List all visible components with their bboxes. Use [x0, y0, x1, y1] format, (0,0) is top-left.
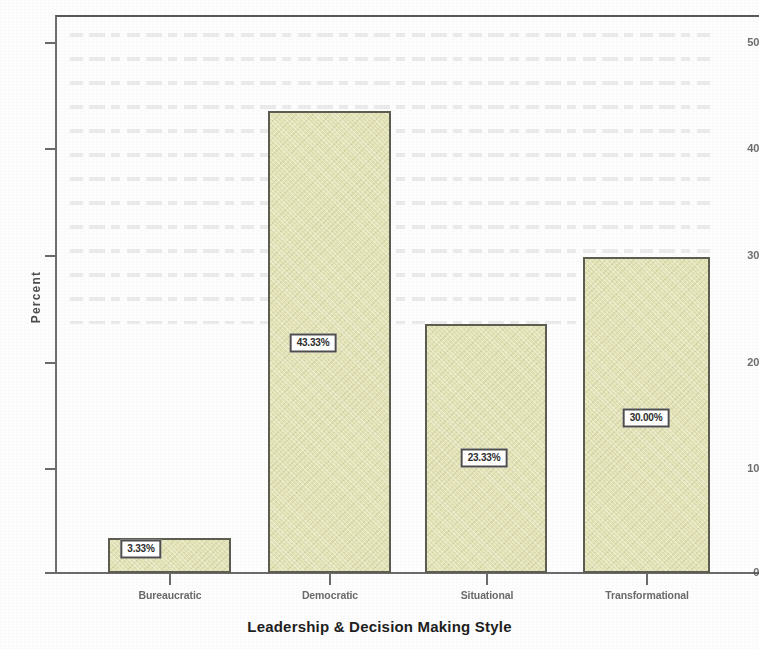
y-tick-label-20: 20 — [719, 356, 759, 368]
x-tick-label-bureaucratic: Bureaucratic — [85, 589, 255, 601]
bar-chart-figure: Percent 50 40 30 20 10 0 3.33% 43.33% 23… — [0, 0, 759, 649]
x-tick-mark-situational — [486, 574, 488, 585]
y-tick-mark-10 — [45, 468, 57, 470]
x-tick-mark-transformational — [646, 574, 648, 585]
bar-value-label-situational: 23.33% — [461, 449, 508, 468]
bar-value-label-bureaucratic: 3.33% — [120, 540, 161, 559]
y-tick-mark-50 — [45, 42, 57, 44]
y-tick-label-10: 10 — [719, 462, 759, 474]
y-tick-label-40: 40 — [719, 142, 759, 154]
y-tick-mark-40 — [45, 148, 57, 150]
y-tick-mark-30 — [45, 255, 57, 257]
x-tick-label-transformational: Transformational — [562, 589, 732, 601]
x-tick-label-situational: Situational — [402, 589, 572, 601]
x-tick-mark-democratic — [329, 574, 331, 585]
y-tick-label-30: 30 — [719, 249, 759, 261]
bar-value-label-democratic: 43.33% — [290, 334, 337, 353]
x-tick-label-democratic: Democratic — [245, 589, 415, 601]
y-tick-mark-0 — [45, 572, 57, 574]
y-tick-label-0: 0 — [719, 566, 759, 578]
x-tick-mark-bureaucratic — [169, 574, 171, 585]
bar-value-label-transformational: 30.00% — [623, 409, 670, 428]
y-tick-mark-20 — [45, 362, 57, 364]
y-tick-label-50: 50 — [719, 36, 759, 48]
x-axis-title: Leadership & Decision Making Style — [0, 618, 759, 635]
y-axis-title: Percent — [29, 237, 43, 357]
